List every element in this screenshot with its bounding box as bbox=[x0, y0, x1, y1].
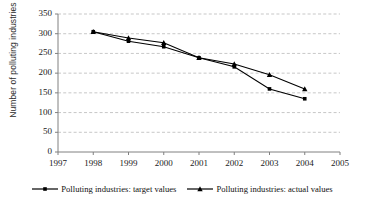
legend-marker-triangle-icon bbox=[187, 184, 213, 194]
x-tick-label: 1998 bbox=[73, 158, 113, 168]
x-tick-label: 2004 bbox=[285, 158, 325, 168]
x-tick-label: 2005 bbox=[320, 158, 360, 168]
y-tick-label: 100 bbox=[26, 107, 52, 117]
series-line bbox=[93, 32, 305, 99]
y-tick-label: 300 bbox=[26, 28, 52, 38]
data-point-square bbox=[268, 87, 272, 91]
gridlines bbox=[58, 14, 340, 132]
series-actual bbox=[91, 29, 308, 91]
y-tick-label: 200 bbox=[26, 67, 52, 77]
data-point-square bbox=[43, 187, 47, 191]
data-point-square bbox=[162, 45, 166, 49]
series-target bbox=[91, 30, 306, 101]
plot-area bbox=[0, 0, 365, 208]
y-tick-label: 50 bbox=[26, 126, 52, 136]
x-tick-label: 2003 bbox=[250, 158, 290, 168]
x-tick-label: 1997 bbox=[38, 158, 78, 168]
legend-label: Polluting industries: target values bbox=[61, 184, 176, 194]
y-tick-label: 250 bbox=[26, 47, 52, 57]
x-tick-label: 1999 bbox=[109, 158, 149, 168]
data-point-square bbox=[303, 97, 307, 101]
chart-container: Number of polluting industries 050100150… bbox=[0, 0, 365, 208]
legend-entry: Polluting industries: target values bbox=[32, 184, 176, 194]
x-tick-label: 2001 bbox=[179, 158, 219, 168]
legend-label: Polluting industries: actual values bbox=[216, 184, 332, 194]
axes bbox=[55, 14, 340, 155]
legend-marker-square-icon bbox=[32, 184, 58, 194]
x-tick-label: 2000 bbox=[144, 158, 184, 168]
legend-entry: Polluting industries: actual values bbox=[187, 184, 332, 194]
x-tick-label: 2002 bbox=[214, 158, 254, 168]
y-axis-title: Number of polluting industries bbox=[8, 0, 18, 135]
y-tick-label: 350 bbox=[26, 8, 52, 18]
y-tick-label: 0 bbox=[26, 146, 52, 156]
chart-legend: Polluting industries: target valuesPollu… bbox=[0, 184, 365, 194]
y-tick-label: 150 bbox=[26, 87, 52, 97]
